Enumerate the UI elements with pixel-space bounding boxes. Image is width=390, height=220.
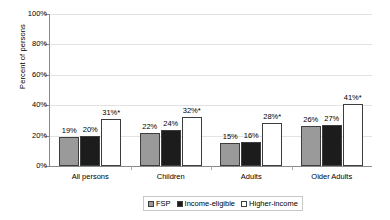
legend-label-higher-income: Higher-income <box>249 200 298 208</box>
bar <box>80 136 100 166</box>
y-axis-tick-label: 0% <box>13 162 47 170</box>
x-axis-separator-tick <box>131 166 132 170</box>
legend-item-income-eligible: Income-eligible <box>177 200 235 208</box>
bar <box>343 104 363 166</box>
bar <box>101 119 121 166</box>
y-axis-tick-label: 60% <box>13 71 47 79</box>
x-axis-category-label: Adults <box>211 172 292 181</box>
legend-label-income-eligible: Income-eligible <box>185 200 235 208</box>
legend-item-fsp: FSP <box>148 200 171 208</box>
bar <box>241 142 261 166</box>
bar <box>182 117 202 166</box>
legend-swatch-income-eligible <box>177 201 183 207</box>
gridline <box>50 44 372 45</box>
bar <box>220 143 240 166</box>
legend-swatch-higher-income <box>241 201 247 207</box>
bar <box>262 123 282 166</box>
bar-value-label: 41%* <box>337 94 369 102</box>
x-axis-separator-tick <box>211 166 212 170</box>
chart-legend: FSP Income-eligible Higher-income <box>143 196 303 211</box>
gridline <box>50 14 372 15</box>
bar <box>140 133 160 166</box>
bar-value-label: 31%* <box>95 109 127 117</box>
y-axis-tick-label: 40% <box>13 101 47 109</box>
plot-area: 19%20%31%*22%24%32%*15%16%28%*26%27%41%* <box>50 14 372 166</box>
legend-swatch-fsp <box>148 201 154 207</box>
bar <box>59 137 79 166</box>
bar-chart: Percent of persons 0%20%40%60%80%100% 19… <box>0 0 390 220</box>
x-axis-category-label: Older Adults <box>292 172 373 181</box>
gridline <box>50 75 372 76</box>
bar <box>322 125 342 166</box>
x-axis-category-label: All persons <box>50 172 131 181</box>
gridline <box>50 105 372 106</box>
bar-value-label: 28%* <box>256 113 288 121</box>
bar <box>161 130 181 166</box>
y-axis-tick-label: 100% <box>13 10 47 18</box>
y-axis-tick-label: 20% <box>13 132 47 140</box>
y-axis-tick-label: 80% <box>13 40 47 48</box>
x-axis-category-label: Children <box>131 172 212 181</box>
bar-value-label: 32%* <box>176 107 208 115</box>
legend-label-fsp: FSP <box>156 200 171 208</box>
bar <box>301 126 321 166</box>
x-axis-separator-tick <box>292 166 293 170</box>
legend-item-higher-income: Higher-income <box>241 200 298 208</box>
